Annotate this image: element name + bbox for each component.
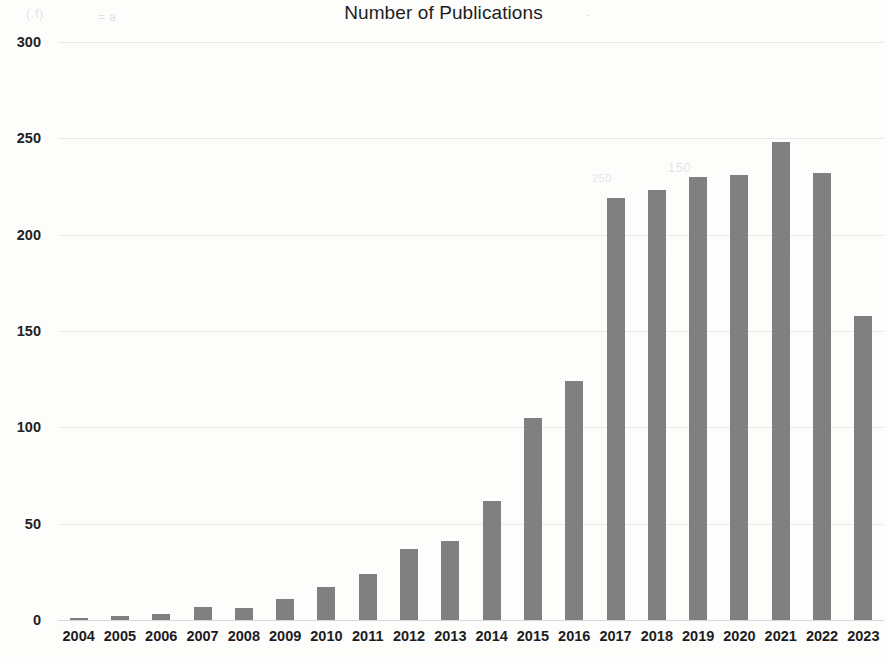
x-tick-label-2020: 2020 [717,628,761,644]
gridline-250 [58,138,884,139]
x-tick-label-2008: 2008 [222,628,266,644]
bar-2012 [400,549,418,620]
x-tick-label-2007: 2007 [181,628,225,644]
gridline-100 [58,427,884,428]
bar-2015 [524,418,542,620]
bar-2010 [317,587,335,620]
x-tick-label-2012: 2012 [387,628,431,644]
bar-2018 [648,190,666,620]
bar-2005 [111,616,129,620]
x-tick-label-2010: 2010 [304,628,348,644]
x-tick-label-2023: 2023 [841,628,885,644]
x-axis-ticks: 2004200520062007200820092010201120122013… [58,628,884,656]
y-tick-label-200: 200 [0,227,41,243]
bar-2007 [194,607,212,620]
gridline-300 [58,42,884,43]
bar-2020 [730,175,748,620]
x-tick-label-2015: 2015 [511,628,555,644]
bar-2014 [483,501,501,620]
bar-2004 [70,618,88,620]
bar-2009 [276,599,294,620]
y-tick-label-300: 300 [0,34,41,50]
x-tick-label-2018: 2018 [635,628,679,644]
bar-2023 [854,316,872,620]
x-tick-label-2022: 2022 [800,628,844,644]
x-tick-label-2017: 2017 [594,628,638,644]
bar-2016 [565,381,583,620]
gridline-0 [58,620,884,621]
x-tick-label-2016: 2016 [552,628,596,644]
x-tick-label-2005: 2005 [98,628,142,644]
plot-area: 050100150200250300 [58,42,884,620]
bar-2017 [607,198,625,620]
y-tick-label-250: 250 [0,130,41,146]
y-tick-label-50: 50 [0,516,41,532]
y-tick-label-150: 150 [0,323,41,339]
bar-2008 [235,608,253,620]
gridline-150 [58,331,884,332]
y-tick-label-0: 0 [0,612,41,628]
chart-page: (.f) = a - 150 250 Number of Publication… [0,0,887,663]
x-tick-label-2019: 2019 [676,628,720,644]
chart-title: Number of Publications [0,2,887,24]
bar-2011 [359,574,377,620]
x-tick-label-2021: 2021 [759,628,803,644]
x-tick-label-2006: 2006 [139,628,183,644]
bar-2006 [152,614,170,620]
x-tick-label-2011: 2011 [346,628,390,644]
gridline-200 [58,235,884,236]
bar-2021 [772,142,790,620]
x-tick-label-2004: 2004 [57,628,101,644]
bar-2013 [441,541,459,620]
x-tick-label-2013: 2013 [428,628,472,644]
x-tick-label-2014: 2014 [470,628,514,644]
gridline-50 [58,524,884,525]
bar-2022 [813,173,831,620]
bar-2019 [689,177,707,620]
x-tick-label-2009: 2009 [263,628,307,644]
y-tick-label-100: 100 [0,419,41,435]
